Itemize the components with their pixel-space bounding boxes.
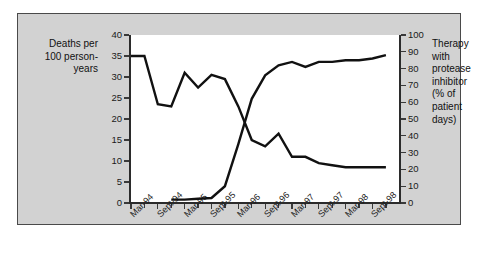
therapy-line	[171, 55, 386, 199]
series-lines	[18, 14, 480, 255]
deaths-line	[131, 56, 386, 167]
chart-frame: Deaths per 100 person-years Therapy with…	[17, 13, 461, 225]
